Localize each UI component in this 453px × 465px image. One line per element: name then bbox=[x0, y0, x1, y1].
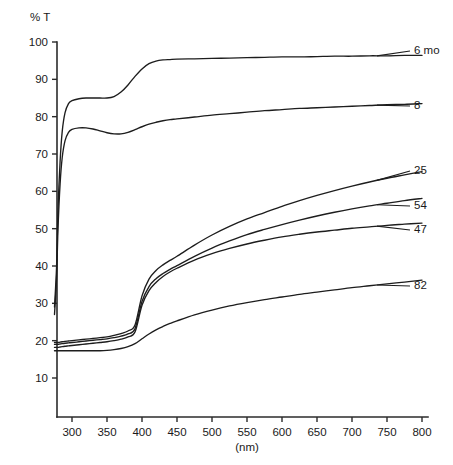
x-tick-label: 600 bbox=[272, 426, 291, 438]
x-tick-label: 700 bbox=[342, 426, 361, 438]
x-tick-label: 650 bbox=[307, 426, 326, 438]
x-tick-label: 800 bbox=[412, 426, 431, 438]
series-label-82: 82 bbox=[414, 279, 427, 291]
y-tick-label: 60 bbox=[35, 185, 48, 197]
x-axis-unit-label: (nm) bbox=[235, 441, 259, 453]
series-label-8: 8 bbox=[414, 99, 420, 111]
y-axis-title: % T bbox=[30, 11, 50, 23]
x-tick-label: 350 bbox=[97, 426, 116, 438]
series-label-6-mo: 6 mo bbox=[414, 44, 440, 56]
x-tick-label: 450 bbox=[167, 426, 186, 438]
y-tick-label: 90 bbox=[35, 73, 48, 85]
series-label-47: 47 bbox=[414, 223, 427, 235]
y-tick-label: 50 bbox=[35, 223, 48, 235]
y-tick-label: 30 bbox=[35, 297, 48, 309]
series-label-25: 25 bbox=[414, 164, 427, 176]
series-label-54: 54 bbox=[414, 199, 427, 211]
y-tick-label: 100 bbox=[29, 36, 48, 48]
x-tick-label: 400 bbox=[132, 426, 151, 438]
y-tick-label: 80 bbox=[35, 111, 48, 123]
x-tick-label: 500 bbox=[202, 426, 221, 438]
x-tick-label: 750 bbox=[377, 426, 396, 438]
x-tick-label: 300 bbox=[62, 426, 81, 438]
chart-figure: % T 102030405060708090100 30035040045050… bbox=[0, 0, 453, 465]
transmittance-spectrum-chart: % T 102030405060708090100 30035040045050… bbox=[0, 0, 453, 465]
chart-background bbox=[0, 0, 453, 465]
y-tick-label: 10 bbox=[35, 372, 48, 384]
y-tick-label: 20 bbox=[35, 335, 48, 347]
y-tick-label: 70 bbox=[35, 148, 48, 160]
x-tick-label: 550 bbox=[237, 426, 256, 438]
y-tick-label: 40 bbox=[35, 260, 48, 272]
